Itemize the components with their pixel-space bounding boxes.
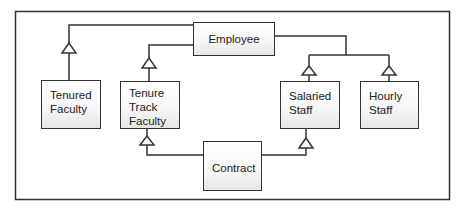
- connector-staff: [274, 36, 346, 55]
- triangle-arrow-icon: [382, 66, 396, 75]
- class-label: Hourly Staff: [369, 89, 402, 117]
- triangle-arrow-icon: [140, 136, 154, 145]
- class-employee: Employee: [193, 22, 275, 56]
- class-label: Tenured Faculty: [50, 88, 92, 116]
- class-label: Tenure Track Faculty: [129, 86, 166, 128]
- class-label: Contract: [212, 161, 255, 175]
- class-tenured-faculty: Tenured Faculty: [41, 80, 101, 129]
- connector-tenure-track: [149, 45, 193, 58]
- class-tenure-track-faculty: Tenure Track Faculty: [120, 81, 180, 129]
- triangle-arrow-icon: [299, 138, 313, 148]
- class-salaried-staff: Salaried Staff: [280, 81, 340, 129]
- generalization-arrows: [62, 43, 396, 148]
- class-hourly-staff: Hourly Staff: [360, 81, 419, 129]
- triangle-arrow-icon: [302, 66, 316, 75]
- class-label: Salaried Staff: [289, 89, 331, 117]
- triangle-arrow-icon: [62, 43, 76, 53]
- connector-contract-salaried: [261, 148, 306, 155]
- connector-tenured-faculty: [69, 25, 193, 43]
- connector-contract-tenure-track: [147, 145, 203, 155]
- class-label: Employee: [194, 32, 274, 46]
- class-contract: Contract: [203, 141, 262, 191]
- triangle-arrow-icon: [142, 58, 156, 68]
